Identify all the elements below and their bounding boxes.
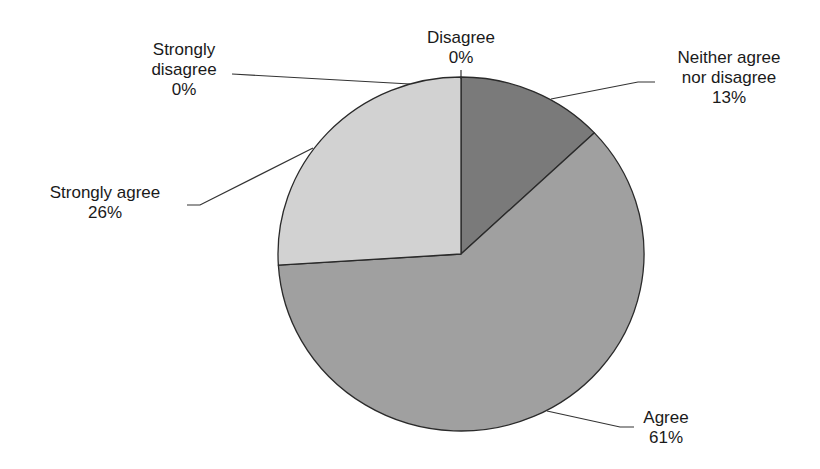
label-disagree-pct: 0% (420, 48, 502, 68)
label-agree: Agree 61% (636, 408, 696, 448)
label-strongly-disagree-pct: 0% (138, 80, 230, 100)
label-disagree-name: Disagree (420, 28, 502, 48)
label-neither-name-1: Neither agree (658, 48, 800, 68)
label-strongly-disagree: Strongly disagree 0% (138, 40, 230, 100)
label-strongly-agree: Strongly agree 26% (30, 183, 180, 223)
label-agree-name: Agree (636, 408, 696, 428)
label-disagree: Disagree 0% (420, 28, 502, 68)
label-neither: Neither agree nor disagree 13% (658, 48, 800, 108)
label-agree-pct: 61% (636, 428, 696, 448)
leader-line-neither (551, 82, 655, 99)
leader-line-strongly-disagree (232, 74, 410, 84)
pie-slice-strongly-agree (278, 77, 461, 265)
label-strongly-agree-pct: 26% (30, 203, 180, 223)
label-strongly-agree-name: Strongly agree (30, 183, 180, 203)
label-neither-name-2: nor disagree (658, 68, 800, 88)
label-neither-pct: 13% (658, 88, 800, 108)
label-strongly-disagree-name-1: Strongly (138, 40, 230, 60)
leader-line-agree (547, 411, 634, 427)
label-strongly-disagree-name-2: disagree (138, 60, 230, 80)
pie-slices (278, 77, 644, 431)
